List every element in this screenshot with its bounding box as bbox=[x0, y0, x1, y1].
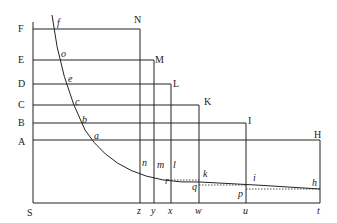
label-S: S bbox=[27, 208, 33, 218]
label-c: c bbox=[75, 97, 79, 107]
label-I: I bbox=[248, 116, 251, 126]
label-a: a bbox=[94, 131, 99, 141]
label-C: C bbox=[18, 100, 25, 110]
label-L: L bbox=[173, 79, 179, 89]
label-u: u bbox=[243, 206, 248, 216]
label-r: r bbox=[165, 176, 169, 186]
label-A: A bbox=[18, 137, 25, 147]
label-i: i bbox=[253, 173, 256, 183]
label-z: z bbox=[137, 206, 141, 216]
label-t: t bbox=[317, 206, 320, 216]
label-F: F bbox=[18, 24, 24, 34]
label-x: x bbox=[168, 206, 172, 216]
label-k: k bbox=[203, 169, 207, 179]
label-H: H bbox=[314, 130, 321, 140]
label-l: l bbox=[173, 160, 176, 170]
label-n: n bbox=[142, 158, 147, 168]
label-M: M bbox=[155, 55, 164, 65]
label-B: B bbox=[18, 118, 25, 128]
label-b: b bbox=[82, 115, 87, 125]
label-w: w bbox=[195, 206, 202, 216]
label-e: e bbox=[68, 74, 72, 84]
hyperbola-rectangles-diagram: F E D C B A S N M L K I H f o e c b a n … bbox=[0, 0, 337, 223]
label-K: K bbox=[204, 97, 211, 107]
label-f: f bbox=[57, 18, 60, 28]
label-q: q bbox=[192, 182, 197, 192]
label-p: p bbox=[238, 189, 243, 199]
label-h: h bbox=[312, 178, 317, 188]
label-o: o bbox=[61, 49, 66, 59]
label-m: m bbox=[157, 160, 164, 170]
diagram-lines bbox=[0, 0, 337, 223]
label-E: E bbox=[18, 55, 24, 65]
label-D: D bbox=[18, 79, 25, 89]
label-y: y bbox=[151, 206, 155, 216]
label-N: N bbox=[134, 15, 141, 25]
